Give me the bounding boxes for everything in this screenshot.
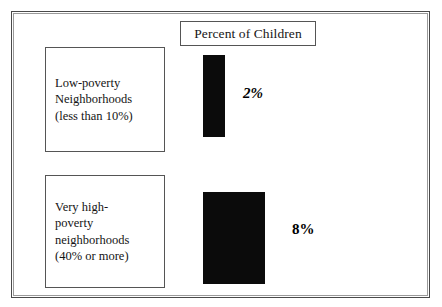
category-label-line: (less than 10%) xyxy=(55,108,133,125)
bar-chart-figure: Percent of Children Low-poverty Neighbor… xyxy=(0,0,442,307)
chart-title-box: Percent of Children xyxy=(180,21,316,46)
category-label-box-very-high-poverty: Very high- poverty neighborhoods (40% or… xyxy=(45,175,165,288)
bar-low-poverty xyxy=(203,55,225,137)
category-label-line: neighborhoods xyxy=(55,232,129,249)
category-label-line: Low-poverty xyxy=(55,75,133,92)
bar-very-high-poverty xyxy=(203,192,265,284)
category-label-text-low-poverty: Low-poverty Neighborhoods (less than 10%… xyxy=(46,75,133,125)
category-label-box-low-poverty: Low-poverty Neighborhoods (less than 10%… xyxy=(45,47,165,152)
category-label-line: Neighborhoods xyxy=(55,91,133,108)
category-label-text-very-high-poverty: Very high- poverty neighborhoods (40% or… xyxy=(46,199,129,265)
category-label-line: Very high- xyxy=(55,199,129,216)
category-label-line: poverty xyxy=(55,215,129,232)
bar-value-label-low-poverty: 2% xyxy=(243,85,263,102)
bar-value-label-very-high-poverty: 8% xyxy=(292,221,315,238)
category-label-line: (40% or more) xyxy=(55,248,129,265)
chart-title: Percent of Children xyxy=(194,26,302,42)
